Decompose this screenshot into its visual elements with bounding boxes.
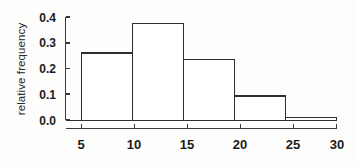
x-axis-tick-labels: 5 10 15 20 25 30 [0, 0, 357, 167]
x-tick-label: 5 [61, 138, 101, 151]
x-tick-label: 20 [220, 138, 260, 151]
x-tick-label: 25 [273, 138, 313, 151]
x-tick-label: 10 [114, 138, 154, 151]
histogram-figure: relative frequency 0.4 0.3 0.2 0.1 0.0 [0, 0, 357, 167]
x-tick-label: 30 [317, 138, 357, 151]
x-tick-label: 15 [167, 138, 207, 151]
